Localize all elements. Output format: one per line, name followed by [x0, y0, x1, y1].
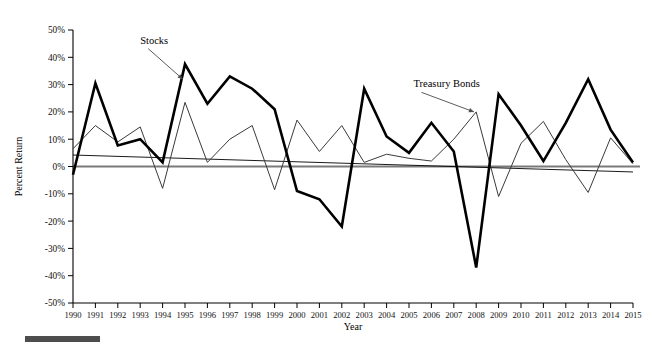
- y-tick-label: 40%: [48, 53, 65, 63]
- y-axis-title: Percent Return: [13, 137, 24, 197]
- x-tick-label: 1992: [109, 310, 126, 320]
- x-tick-label: 2008: [468, 310, 485, 320]
- y-tick-label: -10%: [45, 189, 65, 199]
- x-tick-group: 1990199119921993199419951996199719981999…: [64, 303, 641, 320]
- x-tick-label: 2010: [512, 310, 529, 320]
- y-tick-label: 30%: [48, 80, 65, 90]
- x-tick-label: 2002: [333, 310, 350, 320]
- y-tick-label: -20%: [45, 217, 65, 227]
- x-tick-label: 1999: [266, 310, 283, 320]
- series-annotation-label: Treasury Bonds: [413, 78, 479, 89]
- y-tick-label: -50%: [45, 298, 65, 308]
- y-tick-label: 10%: [48, 135, 65, 145]
- x-tick-label: 1997: [221, 310, 239, 320]
- x-tick-label: 2015: [624, 310, 641, 320]
- y-tick-label: 50%: [48, 25, 65, 35]
- x-tick-label: 2001: [311, 310, 328, 320]
- x-tick-label: 1993: [132, 310, 149, 320]
- x-tick-label: 2014: [602, 310, 620, 320]
- x-tick-label: 2000: [288, 310, 305, 320]
- x-tick-label: 1995: [176, 310, 193, 320]
- y-tick-group: 50%40%30%20%10%0%-10%-20%-30%-40%-50%: [45, 25, 73, 308]
- x-tick-label: 2011: [535, 310, 552, 320]
- x-tick-label: 2009: [490, 310, 507, 320]
- annotation-arrowhead: [468, 108, 473, 112]
- figure-caption-bar: [25, 336, 100, 342]
- y-tick-label: -30%: [45, 244, 65, 254]
- x-tick-label: 1994: [154, 310, 172, 320]
- x-axis: 1990199119921993199419951996199719981999…: [64, 303, 641, 320]
- figure-container: 50%40%30%20%10%0%-10%-20%-30%-40%-50% 19…: [0, 0, 652, 349]
- x-axis-title: Year: [344, 321, 363, 332]
- chart-canvas: 50%40%30%20%10%0%-10%-20%-30%-40%-50% 19…: [0, 0, 652, 349]
- annotation-leader-line: [421, 92, 473, 112]
- x-tick-label: 2004: [378, 310, 396, 320]
- x-tick-label: 2012: [557, 310, 574, 320]
- y-tick-label: 0%: [53, 162, 66, 172]
- x-tick-label: 2013: [580, 310, 597, 320]
- x-tick-label: 2007: [445, 310, 463, 320]
- annotation-leader-line: [148, 49, 183, 79]
- x-tick-label: 2006: [423, 310, 441, 320]
- y-tick-label: 20%: [48, 107, 65, 117]
- x-tick-label: 1996: [199, 310, 217, 320]
- y-axis: 50%40%30%20%10%0%-10%-20%-30%-40%-50%: [45, 25, 73, 308]
- series-annotation-label: Stocks: [140, 35, 168, 46]
- y-tick-label: -40%: [45, 271, 65, 281]
- x-tick-label: 1990: [64, 310, 81, 320]
- x-tick-label: 2003: [356, 310, 373, 320]
- x-tick-label: 2005: [400, 310, 417, 320]
- x-tick-label: 1998: [244, 310, 261, 320]
- x-tick-label: 1991: [87, 310, 104, 320]
